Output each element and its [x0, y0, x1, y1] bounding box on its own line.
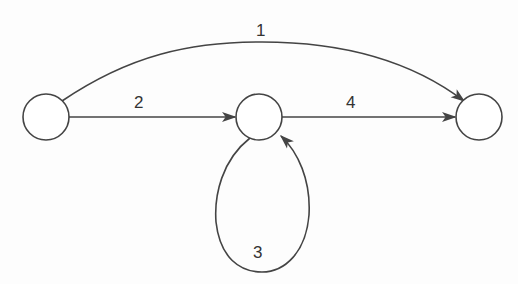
edge-1-label: 1 [256, 21, 265, 40]
edge-2-label: 2 [134, 93, 143, 112]
graph-canvas: 1 2 4 3 [0, 0, 518, 284]
edge-1-arc [62, 42, 464, 101]
edge-4-label: 4 [346, 93, 355, 112]
node-middle [236, 94, 282, 140]
node-left [23, 94, 69, 140]
node-right [456, 94, 502, 140]
edge-3-label: 3 [253, 243, 262, 262]
